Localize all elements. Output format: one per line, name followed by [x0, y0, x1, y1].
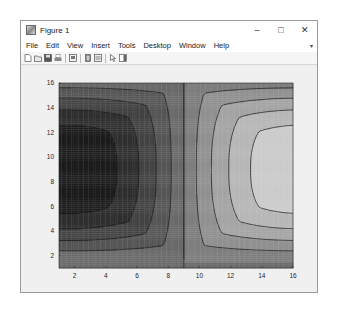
y-tick-label: 4: [50, 227, 54, 234]
menu-file[interactable]: File: [21, 41, 42, 50]
window-title: Figure 1: [40, 26, 69, 35]
x-tick-label: 2: [73, 272, 77, 279]
maximize-button[interactable]: □: [269, 21, 293, 39]
open-file-icon[interactable]: [34, 54, 42, 62]
x-tick-label: 8: [166, 272, 170, 279]
menu-tools[interactable]: Tools: [114, 41, 140, 50]
show-plot-tools-icon[interactable]: [119, 54, 127, 62]
menu-desktop[interactable]: Desktop: [139, 41, 175, 50]
edit-plot-pointer-icon[interactable]: [109, 54, 117, 62]
x-tick-label: 12: [227, 272, 235, 279]
close-button[interactable]: ✕: [293, 21, 317, 39]
title-bar[interactable]: Figure 1 – □ ✕: [21, 21, 317, 39]
menu-bar: File Edit View Insert Tools Desktop Wind…: [21, 39, 317, 52]
background-blurred-text: [0, 296, 337, 314]
x-tick-label: 10: [196, 272, 204, 279]
print-icon[interactable]: [54, 54, 62, 62]
y-tick-label: 10: [47, 153, 55, 160]
link-plot-icon[interactable]: [69, 54, 77, 62]
matlab-figure-icon: [26, 25, 36, 35]
toolbar-separator: [80, 54, 81, 63]
toolbar-separator: [105, 54, 106, 63]
figure-toolbar: [21, 52, 317, 65]
window-controls: – □ ✕: [245, 21, 317, 39]
figure-window: Figure 1 – □ ✕ File Edit View Insert Too…: [20, 20, 318, 293]
y-tick-label: 8: [50, 178, 54, 185]
contour-plot[interactable]: 246810121416 246810121416: [21, 65, 317, 293]
background-blurred-text: [0, 0, 337, 20]
new-figure-icon[interactable]: [24, 54, 32, 62]
y-tick-label: 6: [50, 203, 54, 210]
y-tick-label: 2: [50, 252, 54, 259]
toolbar-separator: [65, 54, 66, 63]
menu-overflow-arrow-icon[interactable]: ▾: [310, 42, 313, 49]
y-tick-label: 14: [47, 104, 55, 111]
menu-edit[interactable]: Edit: [42, 41, 63, 50]
insert-colorbar-icon[interactable]: [84, 54, 92, 62]
menu-view[interactable]: View: [63, 41, 87, 50]
y-tick-label: 16: [47, 79, 55, 86]
save-icon[interactable]: [44, 54, 52, 62]
menu-insert[interactable]: Insert: [87, 41, 114, 50]
x-tick-label: 14: [258, 272, 266, 279]
menu-window[interactable]: Window: [175, 41, 210, 50]
y-tick-label: 12: [47, 129, 55, 136]
minimize-button[interactable]: –: [245, 21, 269, 39]
figure-canvas: 246810121416 246810121416: [21, 65, 317, 292]
x-tick-label: 16: [289, 272, 297, 279]
insert-legend-icon[interactable]: [94, 54, 102, 62]
menu-help[interactable]: Help: [210, 41, 233, 50]
x-tick-label: 4: [104, 272, 108, 279]
x-tick-label: 6: [135, 272, 139, 279]
